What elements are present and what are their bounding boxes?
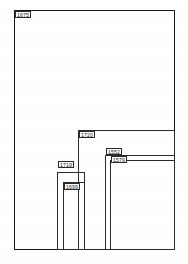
nested-rectangle-diagram: 1675 1720 1552 1579 1719 1699	[0, 0, 188, 264]
rectangle-1699	[63, 182, 85, 250]
label-1719: 1719	[58, 161, 74, 168]
label-1579: 1579	[111, 156, 127, 163]
label-1675: 1675	[15, 11, 31, 18]
rectangle-1579	[110, 160, 175, 250]
label-1552: 1552	[106, 148, 122, 155]
label-1699: 1699	[64, 183, 80, 190]
label-1720: 1720	[79, 131, 95, 138]
